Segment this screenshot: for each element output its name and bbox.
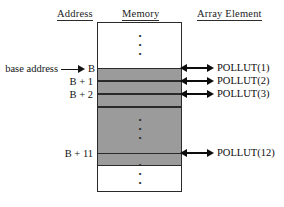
column-header-array-element: Array Element <box>197 8 262 21</box>
address-label-base: base addressB <box>0 63 97 75</box>
base-address-text: base address <box>5 63 58 74</box>
ellipsis-below-array: • • • <box>135 161 145 188</box>
ellipsis-dot: • <box>135 179 145 188</box>
memory-cell-pollut-1 <box>98 68 181 81</box>
ellipsis-dot: • <box>135 50 145 59</box>
array-element-label-2: POLLUT(2) <box>217 75 270 87</box>
array-memory-layout-figure: Address Memory Array Element • • • • • •… <box>0 0 284 207</box>
ellipsis-within-array: • • • <box>135 116 145 143</box>
column-header-address: Address <box>57 8 93 21</box>
double-arrow-icon-pollut-3 <box>180 89 214 98</box>
base-address-symbol: B <box>88 63 95 74</box>
ellipsis-above-array: • • • <box>135 32 145 59</box>
array-element-label-1: POLLUT(1) <box>217 62 270 74</box>
double-arrow-icon-pollut-12 <box>180 148 214 157</box>
memory-cell-pollut-2 <box>98 81 181 94</box>
memory-cell-pollut-3 <box>98 94 181 107</box>
address-label-b-plus-11: B + 11 <box>0 148 93 160</box>
address-label-b-plus-2: B + 2 <box>0 89 93 101</box>
double-arrow-icon-pollut-1 <box>180 63 214 72</box>
ellipsis-dot: • <box>135 134 145 143</box>
array-element-label-3: POLLUT(3) <box>217 88 270 100</box>
base-address-pointer-arrow-icon <box>61 65 85 74</box>
column-header-memory: Memory <box>122 8 159 21</box>
array-element-label-12: POLLUT(12) <box>217 147 275 159</box>
address-label-b-plus-1: B + 1 <box>0 76 93 88</box>
double-arrow-icon-pollut-2 <box>180 76 214 85</box>
